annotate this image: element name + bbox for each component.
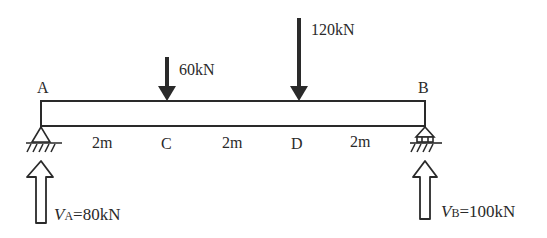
roller-support-b-icon (410, 127, 442, 152)
reaction-label-b: VB=100kN (441, 202, 515, 221)
point-label-d: D (291, 135, 303, 152)
load-arrow-d-icon (290, 18, 308, 101)
span-label-db: 2m (350, 133, 371, 150)
reaction-label-a: VA=80kN (54, 205, 120, 224)
point-label-c: C (161, 135, 172, 152)
load-label-d: 120kN (311, 21, 355, 38)
span-label-ac: 2m (92, 134, 113, 151)
beam (41, 101, 425, 126)
load-arrow-c-icon (158, 57, 176, 101)
reaction-arrow-b-icon (413, 161, 437, 219)
beam-diagram: A B C D 2m 2m 2m 60kN 120kN (0, 0, 547, 238)
reaction-arrow-a-icon (27, 161, 53, 223)
point-label-b: B (418, 79, 429, 96)
load-label-c: 60kN (179, 61, 215, 78)
span-label-cd: 2m (222, 134, 243, 151)
pin-support-a-icon (26, 127, 62, 152)
point-label-a: A (37, 79, 49, 96)
